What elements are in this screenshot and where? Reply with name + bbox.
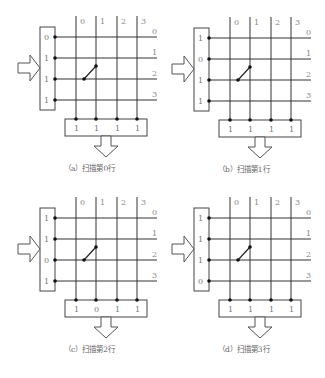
output-arrow-icon: [248, 317, 272, 338]
column-label-3: 3: [141, 17, 146, 26]
output-arrow-icon: [248, 137, 272, 158]
column-input-bit-3: 1: [135, 305, 140, 314]
column-junction-dot: [135, 298, 139, 302]
column-input-bit-1: 1: [94, 124, 99, 133]
row-label-0: 0: [306, 28, 311, 37]
column-junction-dot: [115, 298, 119, 302]
key-switch: [84, 247, 96, 260]
key-switch: [238, 67, 250, 80]
row-junction-dot: [53, 279, 57, 283]
column-input-bit-0: 1: [74, 305, 79, 314]
column-label-1: 1: [254, 198, 259, 207]
row-label-3: 3: [306, 91, 311, 100]
row-junction-dot: [53, 237, 57, 241]
column-junction-dot: [228, 298, 232, 302]
row-output-bit-0: 1: [198, 34, 203, 43]
panel-caption: （b）扫描第1行: [218, 164, 271, 174]
column-input-bit-0: 1: [74, 124, 79, 133]
scan-panel-c: 0123012311011011（c）扫描第2行: [18, 197, 157, 354]
column-label-0: 0: [234, 198, 239, 207]
column-input-bit-3: 1: [289, 125, 294, 134]
output-arrow-icon: [94, 317, 118, 338]
row-label-1: 1: [306, 49, 311, 58]
column-junction-dot: [74, 117, 78, 121]
row-output-bit-1: 0: [198, 55, 203, 64]
column-label-2: 2: [275, 18, 280, 27]
scan-panel-b: 0123012310111111（b）扫描第1行: [172, 17, 311, 174]
input-arrow-icon: [18, 236, 40, 262]
key-switch-contact-row: [82, 258, 86, 262]
row-output-bit-2: 1: [198, 256, 203, 265]
row-output-bit-1: 1: [44, 54, 49, 63]
keyboard-matrix-scan-figure: 0123012301111111（a）扫描第0行0123012310111111…: [0, 0, 325, 378]
column-label-0: 0: [234, 18, 239, 27]
row-junction-dot: [53, 77, 57, 81]
row-junction-dot: [207, 57, 211, 61]
row-label-0: 0: [152, 27, 157, 36]
figure-canvas: 0123012301111111（a）扫描第0行0123012310111111…: [0, 0, 325, 378]
column-label-1: 1: [254, 18, 259, 27]
row-output-bit-2: 1: [198, 76, 203, 85]
column-input-bit-2: 1: [115, 305, 120, 314]
column-input-bit-2: 1: [269, 125, 274, 134]
panel-caption: （d）扫描第3行: [218, 344, 271, 354]
column-input-bit-0: 1: [228, 305, 233, 314]
input-arrow-icon: [18, 55, 40, 81]
row-label-3: 3: [306, 271, 311, 280]
column-input-bit-3: 1: [135, 124, 140, 133]
column-junction-dot: [289, 298, 293, 302]
column-label-0: 0: [80, 198, 85, 207]
row-junction-dot: [207, 36, 211, 40]
row-label-1: 1: [152, 229, 157, 238]
column-input-bit-0: 1: [228, 125, 233, 134]
row-output-bit-3: 1: [44, 96, 49, 105]
row-junction-dot: [207, 99, 211, 103]
column-junction-dot: [289, 118, 293, 122]
row-label-2: 2: [152, 250, 157, 259]
key-switch-contact-row: [236, 78, 240, 82]
row-label-2: 2: [152, 69, 157, 78]
row-junction-dot: [53, 216, 57, 220]
key-switch: [238, 247, 250, 260]
row-junction-dot: [207, 279, 211, 283]
column-label-1: 1: [100, 17, 105, 26]
key-switch-contact-column: [94, 245, 98, 249]
row-output-bit-2: 0: [44, 256, 49, 265]
column-junction-dot: [269, 298, 273, 302]
row-label-2: 2: [306, 250, 311, 259]
row-junction-dot: [53, 56, 57, 60]
key-switch: [84, 66, 96, 79]
row-output-bit-1: 1: [44, 235, 49, 244]
column-input-bit-3: 1: [289, 305, 294, 314]
row-junction-dot: [53, 98, 57, 102]
row-output-bit-1: 1: [198, 235, 203, 244]
column-label-1: 1: [100, 198, 105, 207]
row-output-bit-0: 1: [198, 214, 203, 223]
row-label-1: 1: [306, 229, 311, 238]
scan-panel-a: 0123012301111111（a）扫描第0行: [18, 16, 157, 173]
output-arrow-icon: [94, 136, 118, 157]
row-output-bit-3: 1: [44, 277, 49, 286]
row-junction-dot: [207, 237, 211, 241]
row-output-bit-3: 0: [198, 277, 203, 286]
panel-caption: （c）扫描第2行: [64, 344, 116, 354]
row-output-bit-3: 1: [198, 97, 203, 106]
input-arrow-icon: [172, 236, 194, 262]
column-input-bit-2: 1: [115, 124, 120, 133]
row-label-3: 3: [152, 271, 157, 280]
column-junction-dot: [248, 118, 252, 122]
scan-panel-d: 0123012311101111（d）扫描第3行: [172, 197, 311, 354]
column-label-0: 0: [80, 17, 85, 26]
column-junction-dot: [115, 117, 119, 121]
row-junction-dot: [207, 78, 211, 82]
row-junction-dot: [207, 258, 211, 262]
row-junction-dot: [53, 35, 57, 39]
column-junction-dot: [135, 117, 139, 121]
row-label-3: 3: [152, 90, 157, 99]
column-junction-dot: [269, 118, 273, 122]
row-label-2: 2: [306, 70, 311, 79]
column-junction-dot: [228, 118, 232, 122]
row-output-bit-0: 1: [44, 214, 49, 223]
row-output-bit-0: 0: [44, 33, 49, 42]
column-input-bit-1: 1: [248, 125, 253, 134]
